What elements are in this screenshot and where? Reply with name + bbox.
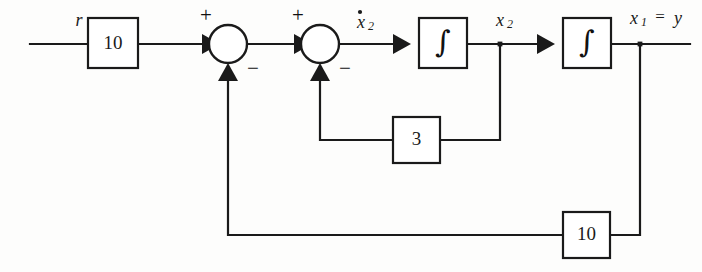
sum-inner-plus-sign: + [292, 3, 304, 27]
signal-label-state-derivative: x 2 [356, 10, 374, 33]
gain-block-outer-feedback[interactable]: 10 [563, 212, 610, 258]
arrowhead-into-integrator-1 [393, 34, 411, 54]
signal-label-x1-subscript: 1 [641, 15, 647, 29]
block-diagram-canvas: 10 ∫ ∫ 3 10 + − + − r [0, 0, 702, 272]
signal-label-output: x 1 = y [629, 7, 682, 29]
signal-label-xdot-subscript: 2 [368, 19, 374, 33]
wire-output-takeoff-to-outer-gain [610, 44, 640, 235]
signal-label-x1-base: x [629, 8, 638, 28]
signal-label-state2: x 2 [495, 10, 513, 31]
junction-node-output [638, 42, 643, 47]
arrowhead-into-integrator-2 [537, 34, 555, 54]
gain-block-outer-feedback-label: 10 [577, 223, 596, 244]
gain-block-inner-feedback-label: 3 [412, 128, 422, 149]
arrowhead-inner-feedback-into-sum [310, 63, 330, 81]
block-diagram-figure: 10 ∫ ∫ 3 10 + − + − r [0, 0, 702, 272]
signal-label-xdot-base: x [356, 12, 365, 32]
integral-icon-first: ∫ [435, 24, 451, 59]
signal-label-x2-base: x [495, 10, 504, 30]
integrator-block-second[interactable]: ∫ [563, 18, 611, 68]
sum-inner-minus-sign: − [339, 56, 351, 80]
integral-icon-second: ∫ [579, 24, 595, 59]
arrowhead-outer-feedback-into-sum [218, 63, 238, 81]
sum-outer-minus-sign: − [247, 56, 259, 80]
gain-block-inner-feedback[interactable]: 3 [393, 117, 440, 163]
signal-label-y: y [672, 8, 682, 28]
wire-inner-gain-to-sum-inner [320, 70, 393, 140]
gain-block-forward-label: 10 [104, 32, 123, 53]
signal-label-equals: = [655, 7, 665, 26]
sum-outer-plus-sign: + [200, 3, 212, 27]
junction-node-x2 [498, 42, 503, 47]
signal-label-input: r [75, 10, 83, 30]
signal-label-x2-subscript: 2 [507, 17, 513, 31]
gain-block-forward[interactable]: 10 [88, 18, 138, 68]
integrator-block-first[interactable]: ∫ [419, 18, 467, 68]
